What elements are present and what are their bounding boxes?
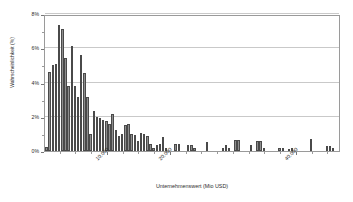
x-axis: 10.00020.00040.000 [44, 152, 340, 202]
bar [99, 118, 101, 151]
bar [222, 148, 224, 151]
bar [96, 117, 98, 151]
x-tick-minor [154, 152, 155, 154]
bar [45, 147, 47, 151]
x-axis-title: Unternehmenswert (Mio USD) [44, 183, 340, 189]
bar [237, 140, 239, 151]
bar [206, 142, 208, 151]
bar [134, 135, 136, 151]
bar [52, 65, 54, 151]
bar [86, 97, 88, 151]
bar [193, 148, 195, 151]
bar [55, 64, 57, 151]
histogram-chart: 0%2%4%6%8% Wahrscheinlichkeit (%) 10.000… [0, 0, 353, 202]
bar [124, 125, 126, 151]
bar [178, 144, 180, 151]
x-tick-minor [312, 152, 313, 154]
y-axis: 0%2%4%6%8% [0, 0, 44, 202]
bar [58, 25, 60, 151]
bar [71, 46, 73, 151]
bar [332, 148, 334, 151]
bar [190, 145, 192, 151]
plot-area [44, 15, 340, 152]
bar [187, 145, 189, 151]
y-tick-label: 4% [32, 81, 40, 86]
x-tick-minor [91, 152, 92, 154]
x-tick-minor [201, 152, 202, 154]
x-tick-minor [327, 152, 328, 154]
bar [108, 124, 110, 151]
x-tick-minor [123, 152, 124, 154]
y-tick-label: 8% [32, 12, 40, 17]
x-tick-minor [75, 152, 76, 154]
bar [225, 145, 227, 151]
bar [48, 72, 50, 151]
bar [130, 134, 132, 151]
gridline-8 [45, 13, 339, 14]
x-tick-minor [60, 152, 61, 154]
bar [74, 86, 76, 151]
bar [140, 133, 142, 151]
bar [80, 55, 82, 151]
x-tick-minor [138, 152, 139, 154]
x-tick-minor [249, 152, 250, 154]
bar [111, 114, 113, 151]
bar [174, 144, 176, 151]
bar [83, 73, 85, 151]
x-tick-minor [280, 152, 281, 154]
bar [228, 148, 230, 151]
x-tick-minor [217, 152, 218, 154]
x-tick-minor [186, 152, 187, 154]
bar [263, 148, 265, 151]
bar [61, 29, 63, 151]
bar [329, 146, 331, 151]
bar [146, 136, 148, 151]
bar [115, 130, 117, 151]
x-tick-minor [233, 152, 234, 154]
bar [149, 144, 151, 151]
bar [259, 141, 261, 151]
bar [326, 146, 328, 151]
bar [67, 86, 69, 151]
bar [282, 148, 284, 151]
bar [278, 148, 280, 151]
bar [118, 136, 120, 151]
bar [143, 134, 145, 151]
bar [77, 97, 79, 151]
y-tick-label: 6% [32, 46, 40, 51]
bar [64, 58, 66, 151]
x-tick-minor [264, 152, 265, 154]
bar [127, 124, 129, 151]
bar [310, 139, 312, 151]
bar [89, 134, 91, 151]
bar [250, 145, 252, 151]
bar [137, 141, 139, 151]
y-axis-title: Wahrscheinlichkeit (%) [10, 23, 15, 103]
bar [121, 134, 123, 151]
y-tick-label: 2% [32, 115, 40, 120]
bar [234, 140, 236, 151]
bar-series [45, 16, 339, 151]
bar [256, 141, 258, 151]
bar [156, 145, 158, 151]
bar [159, 144, 161, 151]
y-tick-label: 0% [32, 149, 40, 154]
bar [152, 148, 154, 151]
bar [93, 111, 95, 151]
